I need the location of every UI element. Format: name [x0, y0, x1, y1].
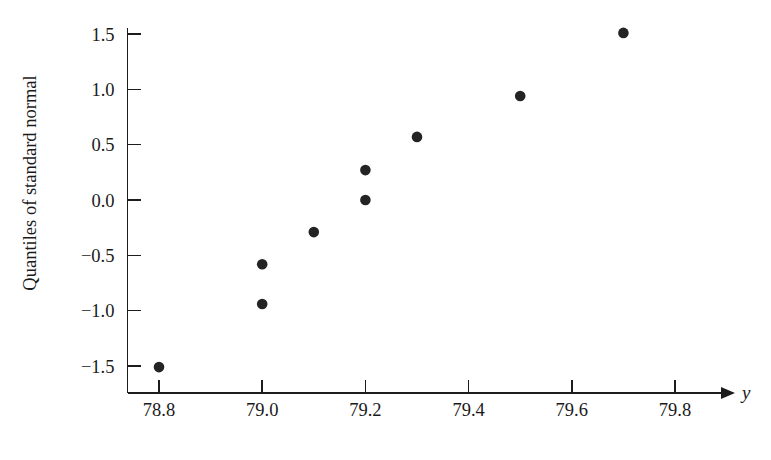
x-tick-label: 79.6	[556, 400, 588, 420]
plot-canvas: y 78.879.079.279.479.679.8 1.51.00.50.0−…	[0, 0, 771, 460]
x-tick-label: 79.2	[349, 400, 381, 420]
data-point	[515, 91, 526, 102]
x-tick-label: 79.4	[452, 400, 484, 420]
x-axis-name: y	[740, 382, 751, 403]
axes: y	[128, 28, 752, 403]
data-points	[154, 28, 629, 373]
data-point	[412, 132, 423, 143]
qq-plot-figure: Quantiles of standard normal y 78.879.07…	[0, 0, 771, 460]
data-point	[618, 28, 629, 39]
y-tick-label: 1.0	[91, 80, 114, 100]
y-tick-label: −1.0	[81, 301, 115, 321]
y-tick-label: −0.5	[81, 246, 115, 266]
x-axis-arrow-icon	[721, 387, 735, 399]
x-tick-label: 79.0	[246, 400, 278, 420]
data-point	[257, 299, 268, 310]
y-tick-label: 1.5	[91, 25, 114, 45]
data-point	[360, 165, 371, 176]
data-point	[360, 195, 371, 206]
y-tick-label: 0.0	[91, 191, 114, 211]
x-tick-label: 79.8	[659, 400, 691, 420]
data-point	[309, 227, 320, 238]
y-tick-label: −1.5	[81, 357, 115, 377]
data-point	[257, 259, 268, 270]
data-point	[154, 362, 165, 373]
x-tick-label: 78.8	[143, 400, 175, 420]
y-axis-ticks: 1.51.00.50.0−0.5−1.0−1.5	[81, 25, 141, 377]
y-tick-label: 0.5	[91, 135, 114, 155]
x-axis-ticks: 78.879.079.279.479.679.8	[143, 380, 691, 420]
